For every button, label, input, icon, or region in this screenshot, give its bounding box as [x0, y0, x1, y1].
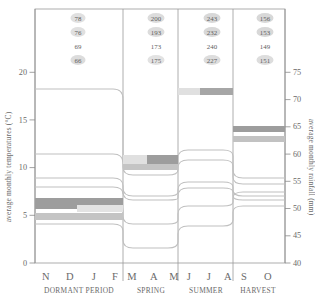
month-label-a2: A [224, 271, 232, 282]
value-summer-3: 227 [207, 57, 218, 64]
value-harvest-0: 156 [260, 15, 271, 22]
y2tick-70: 70 [293, 95, 301, 104]
right-axis: 40 45 50 55 60 65 70 75 average monthly … [285, 9, 315, 268]
left-axis: 0 5 10 15 20 average monthly temperature… [4, 9, 35, 268]
value-harvest-2: 149 [260, 43, 271, 50]
bar-spring-pale [123, 155, 147, 164]
chart-svg: 0 5 10 15 20 average monthly temperature… [0, 0, 315, 307]
value-harvest-3: 151 [260, 57, 271, 64]
month-label-m1: M [127, 271, 137, 282]
month-label-n: N [42, 271, 50, 282]
month-labels: N D J F M A M J J A S O [42, 271, 272, 282]
value-summer-2: 240 [207, 43, 218, 50]
month-label-a1: A [150, 271, 158, 282]
y2tick-65: 65 [293, 122, 301, 131]
bar-harvest-dark [233, 126, 285, 132]
value-harvest-1: 153 [260, 29, 271, 36]
right-axis-title: average monthly rainfall (mm) [307, 119, 315, 216]
bar-summer-dark [200, 88, 233, 95]
value-summer-1: 232 [207, 29, 218, 36]
value-summer-0: 243 [207, 15, 218, 22]
y2tick-60: 60 [293, 150, 301, 159]
bar-dormant-light [77, 205, 123, 212]
y2tick-55: 55 [293, 177, 301, 186]
left-axis-title: average monthly temperatures (°C) [4, 111, 13, 222]
value-dormant-2: 69 [75, 43, 82, 50]
y2tick-45: 45 [293, 231, 301, 240]
season-label-harvest: HARVEST [240, 286, 276, 295]
value-spring-1: 193 [151, 29, 162, 36]
y2tick-50: 50 [293, 204, 301, 213]
season-label-summer: SUMMER [189, 286, 223, 295]
month-label-j2: J [187, 271, 192, 282]
ytick-5: 5 [23, 211, 27, 220]
value-dormant-3: 66 [75, 57, 82, 64]
bar-dormant-mid [35, 213, 123, 220]
month-label-j1: J [92, 271, 97, 282]
month-label-m2: M [169, 271, 179, 282]
season-label-dormant: DORMANT PERIOD [44, 286, 114, 295]
ytick-10: 10 [19, 163, 27, 172]
bar-spring-mid [123, 164, 178, 170]
season-label-spring: SPRING [137, 286, 165, 295]
month-label-j3: J [207, 271, 212, 282]
season-labels: DORMANT PERIOD SPRING SUMMER HARVEST [44, 286, 276, 295]
month-label-d: D [66, 271, 74, 282]
bar-harvest-mid [233, 136, 285, 142]
bar-summer-pale [178, 88, 200, 95]
y2tick-40: 40 [293, 259, 301, 268]
value-dormant-0: 78 [75, 15, 82, 22]
value-spring-0: 200 [151, 15, 162, 22]
ytick-20: 20 [19, 68, 27, 77]
month-label-f: F [112, 271, 118, 282]
ytick-0: 0 [23, 259, 27, 268]
value-spring-2: 173 [151, 43, 162, 50]
value-spring-3: 175 [151, 57, 162, 64]
month-label-o: O [264, 271, 272, 282]
bar-spring-dark [147, 155, 178, 164]
ytick-15: 15 [19, 116, 27, 125]
chart-root: 0 5 10 15 20 average monthly temperature… [0, 0, 315, 307]
value-dormant-1: 76 [75, 29, 82, 36]
month-label-s: S [241, 271, 247, 282]
y2tick-75: 75 [293, 68, 301, 77]
